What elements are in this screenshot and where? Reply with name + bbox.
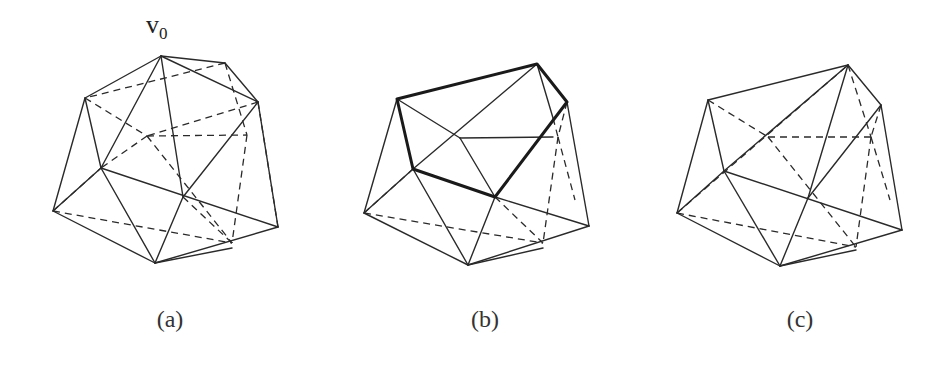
polyhedron-c (677, 65, 902, 266)
polyhedron-b (364, 64, 589, 265)
caption-a: (a) (130, 306, 210, 333)
vertex-label-v0: v0 (146, 10, 168, 44)
pentagon-boundary (397, 64, 567, 197)
polyhedron-a (53, 56, 278, 263)
caption-c: (c) (760, 306, 840, 333)
caption-b: (b) (445, 306, 525, 333)
